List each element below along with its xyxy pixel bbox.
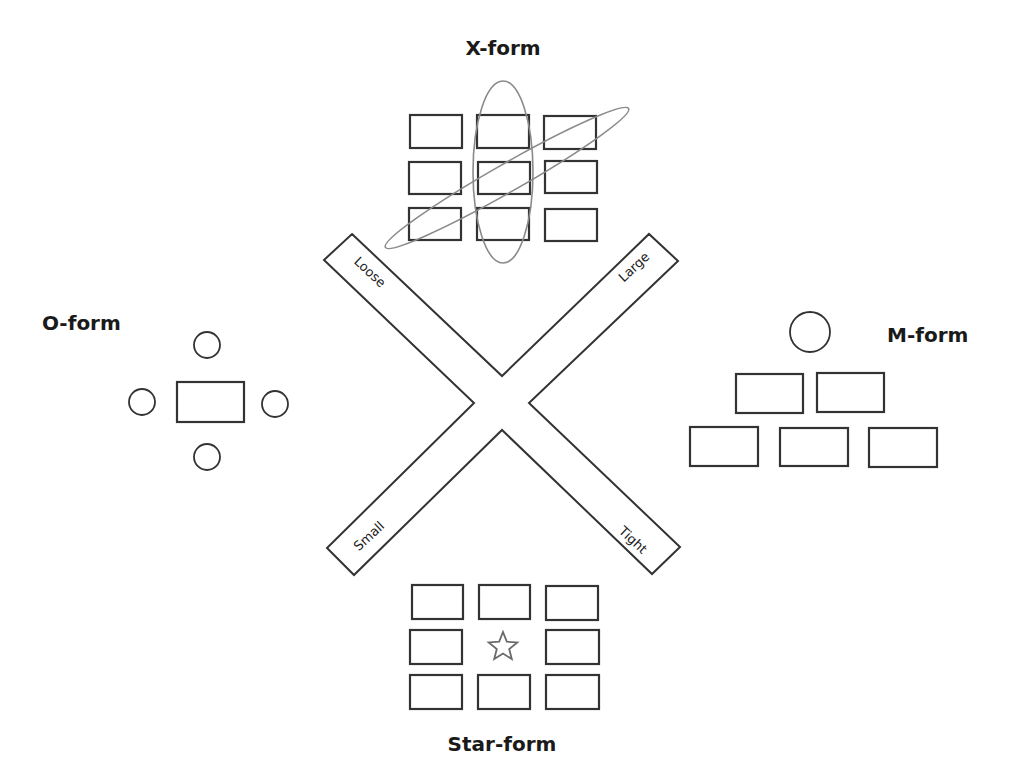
star-form-box — [410, 675, 462, 709]
x-form-box — [477, 208, 529, 240]
x-form-box — [478, 162, 530, 194]
diagram-canvas: LooseLargeSmallTight X-form O-form M-for… — [0, 0, 1011, 784]
o-form-group — [129, 332, 288, 470]
star-icon — [489, 632, 518, 659]
x-form-box — [545, 161, 597, 193]
x-form-box — [409, 162, 461, 194]
x-form-box — [410, 115, 462, 148]
m-form-head-circle — [790, 312, 830, 352]
x-form-title: X-form — [465, 36, 540, 60]
m-form-box — [817, 373, 884, 412]
star-form-box — [412, 585, 463, 619]
star-form-box — [546, 630, 599, 664]
star-form-box — [546, 586, 598, 620]
o-form-seat-circle — [194, 332, 220, 358]
o-form-seat-circle — [194, 444, 220, 470]
star-form-title: Star-form — [448, 732, 557, 756]
o-form-table — [177, 382, 244, 422]
star-form-box — [546, 675, 599, 709]
x-form-box — [545, 209, 597, 241]
star-form-box — [410, 630, 462, 664]
x-form-group — [378, 81, 635, 263]
m-form-box — [869, 428, 937, 467]
star-form-group — [410, 585, 599, 709]
o-form-title: O-form — [42, 311, 121, 335]
m-form-box — [690, 427, 758, 466]
m-form-box — [780, 428, 848, 466]
star-form-box — [478, 675, 530, 709]
x-form-box — [409, 208, 461, 240]
star-form-box — [479, 585, 530, 619]
m-form-title: M-form — [887, 323, 968, 347]
o-form-seat-circle — [262, 391, 288, 417]
x-form-box — [477, 115, 529, 148]
o-form-seat-circle — [129, 389, 155, 415]
m-form-box — [736, 374, 803, 413]
